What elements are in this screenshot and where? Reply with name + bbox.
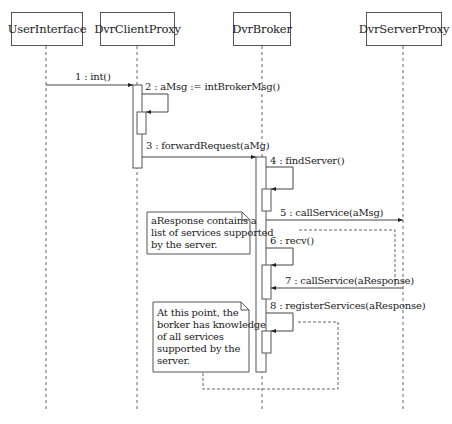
note-1-line-2: list of services supported — [151, 227, 273, 239]
note-2-line-5: server. — [157, 355, 266, 367]
note-2-line-2: borker has knowledge — [157, 319, 266, 331]
message-label-8: 8 : registerServices(aResponse) — [270, 300, 425, 311]
message-label-2: 2 : aMsg := intBrokerMsg() — [145, 81, 280, 92]
participant-userinterface: UserInterface — [11, 12, 83, 46]
note-2: At this point, the borker has knowledge … — [157, 307, 266, 367]
activation-dvrbroker-nested-6 — [262, 265, 271, 299]
message-label-6: 6 : recv() — [270, 235, 314, 246]
activation-dvrbroker-nested-4 — [262, 189, 271, 211]
participant-dvrbroker: DvrBroker — [233, 12, 291, 46]
message-arrow-4 — [266, 167, 293, 189]
note-2-line-1: At this point, the — [157, 307, 266, 319]
message-label-7: 7 : callService(aResponse) — [285, 275, 414, 286]
participant-dvrclientproxy: DvrClientProxy — [100, 12, 175, 46]
message-label-3: 3 : forwardRequest(aMg) — [146, 140, 269, 151]
note-2-line-4: supported by the — [157, 343, 266, 355]
note-1-line-3: by the server. — [151, 239, 273, 251]
message-arrow-8 — [266, 313, 293, 331]
note-2-line-3: of all services — [157, 331, 266, 343]
note-1-line-1: aResponse contains a — [151, 215, 273, 227]
message-label-5: 5 : callService(aMsg) — [280, 207, 383, 218]
message-label-4: 4 : findServer() — [270, 155, 344, 166]
participant-dvrserverproxy: DvrServerProxy — [366, 12, 442, 46]
message-arrow-2 — [142, 94, 168, 112]
message-label-1: 1 : int() — [75, 71, 111, 82]
note-1: aResponse contains a list of services su… — [151, 215, 273, 251]
activation-dvrclientproxy-nested — [137, 112, 146, 134]
